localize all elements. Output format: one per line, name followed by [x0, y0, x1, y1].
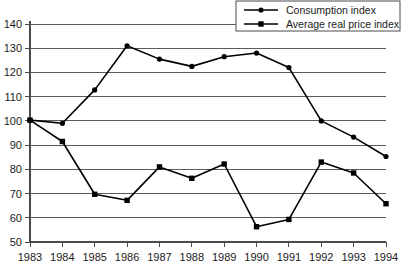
square-marker	[124, 198, 129, 203]
chart-canvas: 5060708090100110120130140 19831984198519…	[0, 0, 407, 273]
y-tick-label-140: 140	[4, 18, 22, 30]
gridlines-group	[30, 24, 386, 242]
circle-marker	[258, 7, 263, 12]
x-tick-label-1984: 1984	[50, 251, 74, 263]
square-marker	[60, 139, 65, 144]
circle-marker	[286, 65, 291, 70]
square-marker	[351, 170, 356, 175]
chart-legend[interactable]: Consumption indexAverage real price inde…	[236, 1, 400, 31]
square-marker	[92, 192, 97, 197]
circle-marker	[383, 154, 388, 159]
square-marker	[254, 224, 259, 229]
circle-marker	[351, 135, 356, 140]
square-marker	[319, 159, 324, 164]
x-tick-label-1992: 1992	[309, 251, 333, 263]
line-chart: 5060708090100110120130140 19831984198519…	[0, 0, 407, 273]
x-tick-label-1983: 1983	[18, 251, 42, 263]
y-tick-labels-group: 5060708090100110120130140	[4, 18, 22, 248]
x-tickmarks-group	[30, 242, 386, 247]
legend-label-1[interactable]: Average real price index	[286, 18, 400, 30]
square-marker	[383, 201, 388, 206]
y-tick-label-70: 70	[10, 188, 22, 200]
x-tick-label-1986: 1986	[115, 251, 139, 263]
y-tick-label-90: 90	[10, 139, 22, 151]
series-markers-group	[27, 43, 388, 229]
circle-marker	[319, 118, 324, 123]
x-tick-labels-group: 1983198419851986198719881989199019911992…	[18, 251, 398, 263]
circle-marker	[222, 54, 227, 59]
square-marker	[221, 161, 226, 166]
x-tick-label-1988: 1988	[180, 251, 204, 263]
square-marker	[157, 164, 162, 169]
x-tick-label-1987: 1987	[147, 251, 171, 263]
circle-marker	[92, 87, 97, 92]
circle-marker	[254, 50, 259, 55]
circle-marker	[124, 43, 129, 48]
y-tick-label-120: 120	[4, 66, 22, 78]
series-line-1	[30, 120, 386, 227]
series-line-0	[30, 46, 386, 157]
circle-marker	[189, 64, 194, 69]
square-marker	[286, 217, 291, 222]
y-tick-label-50: 50	[10, 236, 22, 248]
y-tick-label-100: 100	[4, 115, 22, 127]
x-tick-label-1993: 1993	[341, 251, 365, 263]
circle-marker	[60, 121, 65, 126]
circle-marker	[157, 57, 162, 62]
legend-label-0[interactable]: Consumption index	[286, 4, 377, 16]
square-marker	[27, 117, 32, 122]
x-tick-label-1991: 1991	[277, 251, 301, 263]
x-tick-label-1994: 1994	[374, 251, 398, 263]
y-tick-label-80: 80	[10, 163, 22, 175]
y-tick-label-60: 60	[10, 212, 22, 224]
y-tick-label-130: 130	[4, 42, 22, 54]
square-marker	[258, 21, 263, 26]
x-tick-label-1985: 1985	[82, 251, 106, 263]
square-marker	[189, 176, 194, 181]
x-tick-label-1990: 1990	[244, 251, 268, 263]
x-tick-label-1989: 1989	[212, 251, 236, 263]
y-tick-label-110: 110	[4, 91, 22, 103]
y-tickmarks-group	[25, 24, 30, 242]
